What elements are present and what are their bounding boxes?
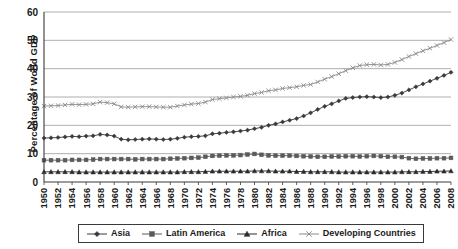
data-point-marker bbox=[231, 130, 235, 134]
series-developing-countries bbox=[42, 37, 453, 109]
x-tick-label: 1978 bbox=[236, 188, 246, 208]
data-point-marker bbox=[435, 43, 439, 47]
x-tick-label: 1986 bbox=[292, 188, 302, 208]
data-point-marker bbox=[112, 157, 116, 161]
legend-item-africa[interactable]: Africa bbox=[236, 229, 287, 239]
data-point-marker bbox=[302, 114, 306, 118]
data-point-marker bbox=[175, 136, 179, 140]
data-point-marker bbox=[330, 74, 334, 78]
data-point-marker bbox=[218, 154, 222, 158]
y-tick-label: 40 bbox=[27, 63, 39, 74]
x-tick-label: 2004 bbox=[418, 187, 428, 208]
data-point-marker bbox=[281, 154, 285, 158]
data-point-marker bbox=[309, 111, 313, 115]
data-point-marker bbox=[203, 155, 207, 159]
data-point-marker bbox=[407, 88, 411, 92]
data-point-marker bbox=[288, 154, 292, 158]
data-point-marker bbox=[133, 137, 137, 141]
x-tick-label: 1952 bbox=[53, 188, 63, 208]
data-point-marker bbox=[386, 95, 390, 99]
data-point-marker bbox=[288, 118, 292, 122]
data-point-marker bbox=[267, 153, 271, 157]
data-point-marker bbox=[196, 134, 200, 138]
data-point-marker bbox=[344, 154, 348, 158]
data-point-marker bbox=[379, 154, 383, 158]
x-tick-label: 1984 bbox=[278, 187, 288, 208]
data-point-marker bbox=[428, 157, 432, 161]
data-point-marker bbox=[112, 134, 116, 138]
x-tick-label: 1958 bbox=[96, 188, 106, 208]
data-point-marker bbox=[260, 153, 264, 157]
data-point-marker bbox=[140, 137, 144, 141]
data-point-marker bbox=[344, 68, 348, 72]
data-point-marker bbox=[259, 125, 263, 129]
data-point-marker bbox=[400, 91, 404, 95]
data-point-marker bbox=[105, 157, 109, 161]
series-africa bbox=[42, 169, 454, 174]
data-point-marker bbox=[84, 158, 88, 162]
data-point-marker bbox=[400, 155, 404, 159]
y-tick-label: 60 bbox=[27, 7, 39, 18]
x-tick-label: 1980 bbox=[250, 188, 260, 208]
data-point-marker bbox=[225, 153, 229, 157]
data-point-marker bbox=[428, 46, 432, 50]
data-point-marker bbox=[56, 158, 60, 162]
legend-label: Africa bbox=[261, 229, 287, 238]
data-point-marker bbox=[70, 134, 74, 138]
y-tick-label: 20 bbox=[27, 120, 39, 131]
legend-marker-x-icon bbox=[298, 229, 320, 239]
data-point-marker bbox=[224, 130, 228, 134]
data-point-marker bbox=[316, 155, 320, 159]
data-point-marker bbox=[98, 157, 102, 161]
data-point-marker bbox=[295, 154, 299, 158]
legend-item-developing-countries[interactable]: Developing Countries bbox=[298, 229, 416, 239]
x-tick-label: 1962 bbox=[124, 188, 134, 208]
data-point-marker bbox=[84, 134, 88, 138]
data-point-marker bbox=[98, 132, 102, 136]
data-point-marker bbox=[210, 132, 214, 136]
data-point-marker bbox=[365, 95, 369, 99]
y-tick-label: 50 bbox=[27, 35, 39, 46]
data-point-marker bbox=[351, 66, 355, 70]
data-point-marker bbox=[189, 135, 193, 139]
x-tick-label: 1954 bbox=[67, 187, 77, 208]
x-tick-label: 1970 bbox=[180, 188, 190, 208]
data-point-marker bbox=[386, 155, 390, 159]
data-point-marker bbox=[119, 157, 123, 161]
data-point-marker bbox=[449, 156, 453, 160]
data-point-marker bbox=[147, 137, 151, 141]
x-tick-label: 2000 bbox=[390, 188, 400, 208]
x-tick-label: 1950 bbox=[39, 188, 49, 208]
data-point-marker bbox=[414, 85, 418, 89]
data-point-marker bbox=[322, 77, 326, 81]
x-tick-label: 1976 bbox=[222, 188, 232, 208]
legend-item-asia[interactable]: Asia bbox=[86, 229, 130, 239]
data-point-marker bbox=[442, 40, 446, 44]
legend-item-latin-america[interactable]: Latin America bbox=[141, 229, 225, 239]
data-point-marker bbox=[105, 133, 109, 137]
data-point-marker bbox=[196, 156, 200, 160]
data-point-marker bbox=[126, 157, 130, 161]
data-point-marker bbox=[154, 157, 158, 161]
data-point-marker bbox=[435, 156, 439, 160]
data-point-marker bbox=[316, 107, 320, 111]
data-point-marker bbox=[414, 157, 418, 161]
data-point-marker bbox=[217, 131, 221, 135]
data-point-marker bbox=[63, 158, 67, 162]
data-point-marker bbox=[379, 95, 383, 99]
data-point-marker bbox=[168, 137, 172, 141]
data-point-marker bbox=[323, 155, 327, 159]
x-tick-label: 1974 bbox=[208, 187, 218, 208]
data-point-marker bbox=[337, 72, 341, 76]
data-point-marker bbox=[266, 123, 270, 127]
data-point-marker bbox=[309, 155, 313, 159]
data-point-marker bbox=[274, 154, 278, 158]
x-tick-label: 1996 bbox=[362, 188, 372, 208]
data-point-marker bbox=[330, 102, 334, 106]
data-point-marker bbox=[252, 127, 256, 131]
data-point-marker bbox=[133, 157, 137, 161]
chart-legend: AsiaLatin AmericaAfricaDeveloping Countr… bbox=[78, 224, 424, 243]
legend-label: Developing Countries bbox=[323, 229, 416, 238]
data-point-marker bbox=[150, 231, 155, 236]
data-point-marker bbox=[189, 156, 193, 160]
